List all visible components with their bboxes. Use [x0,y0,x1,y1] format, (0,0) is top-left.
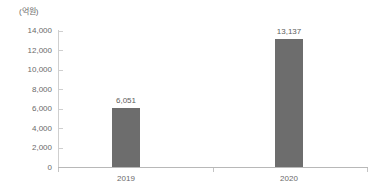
bar-2019 [112,108,140,167]
y-tick-row: 8,000 [0,85,52,94]
y-axis-unit-label: (억원) [19,7,38,17]
bar-value-2019: 6,051 [96,96,156,106]
y-tick-label: 6,000 [6,104,52,113]
y-tick-row: 4,000 [0,124,52,133]
y-tick-mark [59,50,63,51]
y-tick-mark [59,128,63,129]
y-tick-mark [59,70,63,71]
y-tick-mark [59,148,63,149]
y-tick-label: 2,000 [6,143,52,152]
y-tick-label: 14,000 [6,26,52,35]
y-tick-row: 2,000 [0,143,52,152]
y-tick-label: 0 [6,163,52,172]
x-category-label-2019: 2019 [106,173,146,184]
y-tick-row: 12,000 [0,46,52,55]
bar-value-2020: 13,137 [259,27,319,37]
y-tick-mark [59,109,63,110]
y-tick-row: 0 [0,163,52,172]
y-tick-mark [59,89,63,90]
y-tick-label: 8,000 [6,85,52,94]
bar-chart: (억원) 14,000 12,000 10,000 8,000 6,000 4,… [0,0,382,190]
y-tick-row: 10,000 [0,65,52,74]
y-tick-row: 6,000 [0,104,52,113]
x-category-label-2020: 2020 [269,173,309,184]
y-tick-label: 4,000 [6,124,52,133]
y-tick-label: 12,000 [6,46,52,55]
x-tick-mark [58,168,59,172]
x-tick-mark [367,168,368,172]
y-tick-row: 14,000 [0,26,52,35]
x-tick-mark [213,168,214,172]
bar-2020 [275,39,303,167]
y-tick-label: 10,000 [6,65,52,74]
y-tick-mark [59,31,63,32]
